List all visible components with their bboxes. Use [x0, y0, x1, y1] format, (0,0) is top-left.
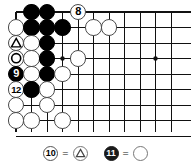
go-stone-white — [39, 81, 55, 97]
go-stone-white — [54, 66, 70, 82]
caption-item: 10= — [43, 146, 87, 161]
move-number-label: 12 — [8, 81, 24, 97]
go-board: 8912 — [0, 0, 191, 140]
caption-move-stone: 10 — [43, 146, 58, 161]
go-stone-black — [39, 19, 55, 35]
go-stone-white — [85, 19, 101, 35]
star-point — [60, 56, 64, 60]
caption-triangle-mark-icon — [73, 146, 88, 161]
go-stone-white — [8, 19, 24, 35]
go-stone-black — [23, 81, 39, 97]
caption-target-stone — [73, 146, 88, 161]
move-number-label: 8 — [70, 4, 86, 20]
caption-move-stone: 11 — [104, 146, 119, 161]
diagram-caption: 10=11= — [0, 140, 191, 166]
go-stone-black — [23, 4, 39, 20]
caption-equals-sign: = — [123, 147, 129, 159]
go-stone-black — [23, 19, 39, 35]
caption-move-number: 11 — [104, 146, 119, 161]
go-stone-white — [8, 112, 24, 128]
go-stone-white — [101, 19, 117, 35]
go-stone-white — [8, 50, 24, 66]
caption-move-number: 10 — [43, 146, 58, 161]
go-stone-white — [70, 50, 86, 66]
go-stone-white — [23, 112, 39, 128]
star-point — [153, 56, 157, 60]
caption-equals-sign: = — [62, 147, 68, 159]
go-stone-black — [39, 50, 55, 66]
go-stone-black — [54, 19, 70, 35]
go-stone-white — [23, 66, 39, 82]
move-number-label: 9 — [8, 66, 24, 82]
go-stone-white — [54, 112, 70, 128]
go-stone-white — [23, 35, 39, 51]
go-stone-white — [23, 50, 39, 66]
caption-item: 11= — [104, 146, 148, 161]
caption-target-stone — [133, 146, 148, 161]
